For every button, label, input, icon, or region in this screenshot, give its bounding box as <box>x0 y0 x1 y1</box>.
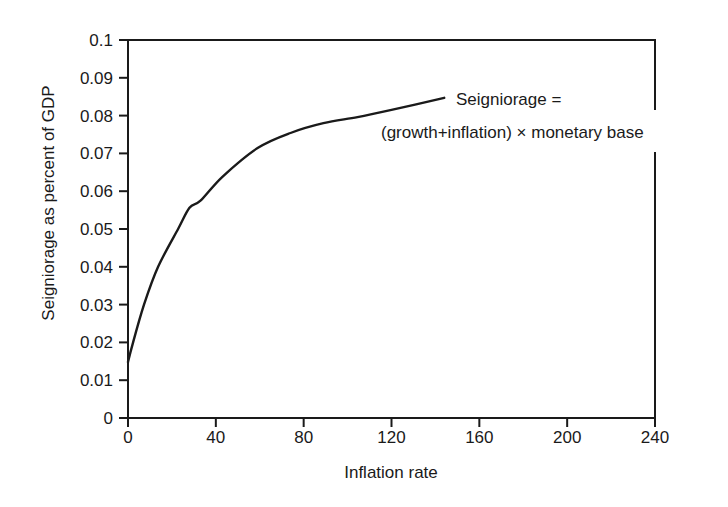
y-tick-label: 0.09 <box>80 69 113 88</box>
x-tick-label: 120 <box>377 428 405 447</box>
y-tick-label: 0.04 <box>80 258 113 277</box>
y-tick-label: 0.06 <box>80 182 113 201</box>
seigniorage-chart: 00.010.020.030.040.050.060.070.080.090.1… <box>0 0 728 507</box>
plot-frame <box>127 40 656 418</box>
x-tick-label: 240 <box>641 428 669 447</box>
x-tick-label: 40 <box>206 428 225 447</box>
y-tick-label: 0.08 <box>80 107 113 126</box>
x-tick-label: 200 <box>553 428 581 447</box>
y-tick-label: 0 <box>104 409 113 428</box>
y-tick-label: 0.05 <box>80 220 113 239</box>
y-tick-label: 0.1 <box>89 31 113 50</box>
y-axis-title: Seigniorage as percent of GDP <box>39 85 58 320</box>
annotation-line-2: (growth+inflation) × monetary base <box>381 123 644 142</box>
y-tick-label: 0.01 <box>80 371 113 390</box>
y-tick-label: 0.03 <box>80 296 113 315</box>
x-tick-label: 80 <box>294 428 313 447</box>
x-tick-label: 160 <box>465 428 493 447</box>
y-tick-label: 0.07 <box>80 144 113 163</box>
y-axis-ticks: 00.010.020.030.040.050.060.070.080.090.1 <box>80 31 128 428</box>
x-axis-title: Inflation rate <box>344 463 438 482</box>
x-tick-label: 0 <box>123 428 132 447</box>
x-axis-ticks: 04080120160200240 <box>123 418 669 447</box>
y-tick-label: 0.02 <box>80 333 113 352</box>
annotation-line-1: Seigniorage = <box>456 90 561 109</box>
